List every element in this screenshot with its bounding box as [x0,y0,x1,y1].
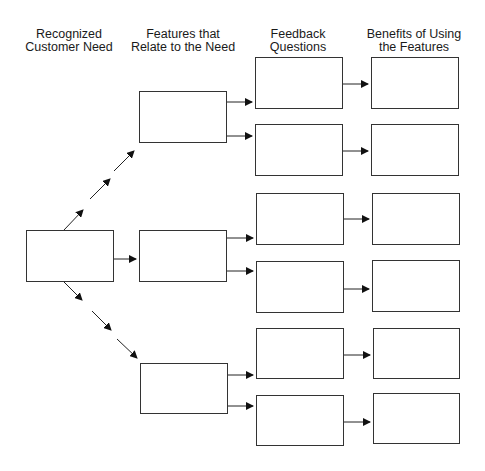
connector-arrows [0,0,485,471]
